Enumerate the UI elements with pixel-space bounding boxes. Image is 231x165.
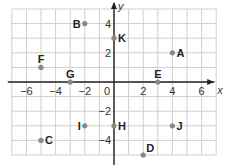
point-label: J — [176, 120, 182, 132]
point-marker-icon — [155, 79, 160, 84]
point-e: E — [154, 68, 161, 85]
y-tick-label: −4 — [98, 134, 111, 146]
x-tick-label: −2 — [79, 85, 92, 97]
point-label: G — [66, 68, 75, 80]
point-label: D — [146, 142, 154, 154]
point-label: K — [118, 32, 126, 44]
point-marker-icon — [68, 79, 73, 84]
point-marker-icon — [111, 123, 116, 128]
coordinate-plane: xy −6−4−2024642−2−4 ABCDEFGHIJK — [0, 0, 231, 165]
x-tick-label: −6 — [20, 85, 33, 97]
point-label: F — [38, 53, 45, 65]
y-axis-arrow-icon — [111, 2, 117, 9]
point-marker-icon — [82, 21, 87, 26]
point-label: B — [73, 18, 81, 30]
y-tick-label: 4 — [105, 18, 111, 30]
point-label: C — [45, 134, 53, 146]
point-marker-icon — [111, 36, 116, 41]
point-label: A — [176, 47, 184, 59]
point-marker-icon — [170, 50, 175, 55]
y-axis-label: y — [117, 0, 125, 12]
point-j: J — [170, 120, 183, 132]
x-axis-arrow-icon — [207, 79, 214, 85]
x-tick-label: 0 — [104, 85, 110, 97]
x-axis-label: x — [216, 84, 223, 96]
x-tick-label: 6 — [199, 85, 205, 97]
x-tick-label: 2 — [140, 85, 146, 97]
point-label: I — [78, 120, 81, 132]
x-tick-label: −4 — [49, 85, 62, 97]
point-marker-icon — [170, 123, 175, 128]
point-marker-icon — [38, 138, 43, 143]
point-marker-icon — [141, 152, 146, 157]
point-label: H — [118, 120, 126, 132]
point-label: E — [154, 68, 161, 80]
x-tick-label: 4 — [169, 85, 175, 97]
point-f: F — [38, 53, 45, 70]
point-marker-icon — [38, 65, 43, 70]
y-tick-label: −2 — [98, 105, 111, 117]
y-tick-label: 2 — [105, 47, 111, 59]
point-marker-icon — [82, 123, 87, 128]
point-i: I — [78, 120, 88, 132]
